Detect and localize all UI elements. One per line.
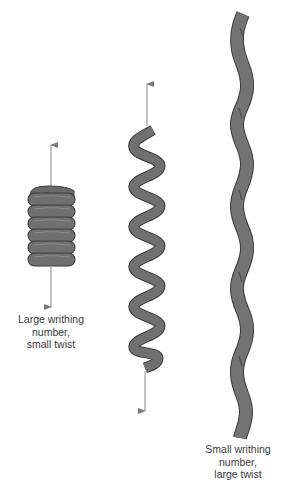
writhe-twist-diagram: Large writhing number, small twist Small… (0, 0, 284, 484)
coil-turns (28, 193, 75, 266)
label-line: small twist (1, 338, 101, 351)
label-line: number, (1, 326, 101, 339)
label-large-writhing: Large writhing number, small twist (1, 313, 101, 351)
label-small-writhing: Small writhing number, large twist (188, 443, 284, 481)
label-line: large twist (188, 468, 284, 481)
twisted-ribbon (237, 14, 247, 438)
label-line: number, (188, 456, 284, 469)
plectonemic-helix (134, 84, 160, 411)
diagram-canvas (0, 0, 284, 484)
label-line: Small writhing (188, 443, 284, 456)
label-line: Large writhing (1, 313, 101, 326)
solenoidal-coil (28, 145, 75, 307)
